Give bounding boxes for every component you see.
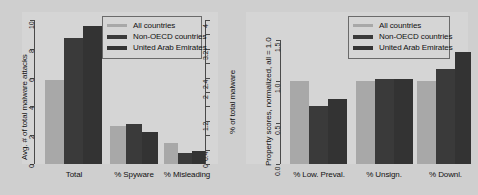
bar-all-countries [45, 80, 64, 164]
y-axis-title-right: Property scores, normalized, all = 1.0 [264, 38, 273, 166]
y-tick-label-left-secondary: 0 [202, 164, 209, 168]
x-tick-label-right: % Downl. [418, 170, 473, 179]
legend-item: Non-OECD countries [353, 31, 444, 42]
bar-non-oecd [126, 124, 142, 164]
legend-item: United Arab Emirates [353, 42, 444, 53]
legend-item: All countries [353, 20, 444, 31]
y-axis-title-left: Avg. # of total malware attacks [20, 54, 29, 160]
bar-all-countries [164, 143, 178, 164]
y-tick-label-left: 2 [28, 135, 35, 139]
bar-non-oecd [375, 79, 394, 164]
x-tick-label-right: % Unsign. [355, 170, 413, 179]
legend-label: All countries [379, 21, 421, 30]
legend-label: All countries [133, 21, 175, 30]
y-tick-label-left: 0 [28, 164, 35, 168]
bar-all-countries [417, 81, 436, 164]
bar-all-countries [356, 81, 375, 164]
bar-non-oecd [178, 153, 192, 164]
y-tick-label-left-secondary: 4 [202, 24, 209, 28]
legend-label: Non-OECD countries [133, 32, 206, 41]
y-tick-label-left-secondary: 2 [202, 95, 209, 99]
x-tick-label-left: % Misleading [156, 170, 218, 179]
y-tick-left-secondary [206, 20, 210, 21]
bar-uae [455, 52, 471, 164]
y-tick-right [276, 123, 280, 124]
legend-left: All countries Non-OECD countries United … [102, 16, 202, 59]
y-tick-left-secondary [206, 63, 210, 64]
y-tick-label-right: 0.5 [274, 126, 281, 135]
y-tick-left-secondary [206, 106, 210, 107]
legend-item: All countries [107, 20, 196, 31]
x-tick-label-right: % Low. Preval. [284, 170, 354, 179]
y-tick-right [276, 164, 280, 165]
y-tick-label-right: 1.0 [274, 84, 281, 93]
y-tick-label-left-secondary: 2.4 [202, 80, 209, 89]
legend-label: United Arab Emirates [133, 43, 207, 52]
y-axis-line-right [280, 40, 281, 164]
y-tick-label-left: 10 [28, 22, 35, 29]
figure-root: 0 2 4 6 8 10 Avg. # of total malware att… [0, 0, 478, 195]
y-tick-label-left: 8 [28, 49, 35, 53]
bar-uae [394, 79, 413, 164]
y-tick-left-secondary [206, 135, 210, 136]
y-tick-label-left: 6 [28, 78, 35, 82]
legend-label: United Arab Emirates [379, 43, 453, 52]
y-tick-label-left-secondary: 1.2 [202, 122, 209, 131]
legend-swatch-icon [107, 24, 127, 27]
legend-item: Non-OECD countries [107, 31, 196, 42]
legend-right: All countries Non-OECD countries United … [348, 16, 450, 59]
bar-all-countries [110, 126, 126, 164]
bar-non-oecd [309, 106, 328, 164]
y-tick-label-left: 4 [28, 106, 35, 110]
legend-swatch-icon [353, 46, 373, 50]
y-tick-left-secondary [206, 34, 210, 35]
legend-swatch-icon [107, 46, 127, 50]
y-axis-line-left [34, 20, 35, 164]
chart-panel-right: 0.0 0.5 1.0 1.5 Property scores, normali… [238, 0, 478, 195]
y-tick-right [276, 81, 280, 82]
legend-swatch-icon [353, 24, 373, 27]
legend-item: United Arab Emirates [107, 42, 196, 53]
y-tick-left-secondary [206, 78, 210, 79]
x-tick-label-left: % Spyware [104, 170, 164, 179]
y-tick-right [276, 40, 280, 41]
y-tick-left-secondary [206, 92, 210, 93]
chart-panel-left: 0 2 4 6 8 10 Avg. # of total malware att… [0, 0, 238, 195]
y-tick-label-left-secondary: 3.2 [202, 51, 209, 60]
bar-non-oecd [64, 38, 83, 164]
x-tick-label-left: Total [44, 170, 104, 179]
y-tick-left-secondary [206, 150, 210, 151]
legend-swatch-icon [353, 35, 373, 39]
bar-uae [328, 99, 347, 164]
bar-uae [142, 132, 158, 164]
legend-swatch-icon [107, 35, 127, 39]
bar-uae [83, 26, 102, 164]
bar-all-countries [290, 81, 309, 164]
y-tick-label-right: 1.5 [274, 43, 281, 52]
bar-uae [192, 151, 205, 164]
bar-non-oecd [436, 69, 455, 164]
y-axis-title-left-secondary: % of total malware [228, 70, 237, 134]
y-tick-label-right: 0.0 [274, 167, 281, 176]
legend-label: Non-OECD countries [379, 32, 452, 41]
